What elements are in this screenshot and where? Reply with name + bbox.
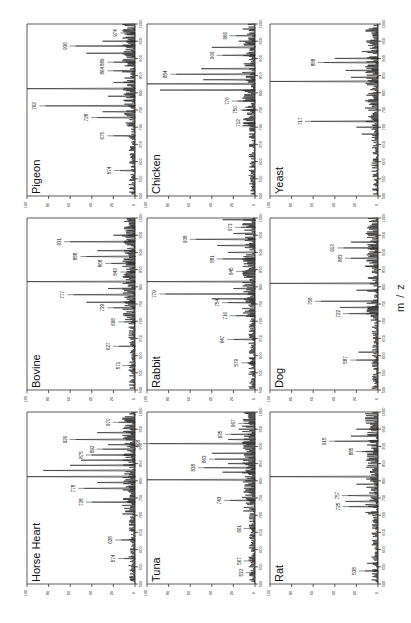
peak-label: 883 [338, 254, 343, 262]
svg-text:850: 850 [138, 459, 143, 466]
svg-text:20: 20 [109, 590, 114, 595]
peak-label: 778 [71, 484, 76, 492]
svg-text:600: 600 [381, 545, 386, 552]
svg-text:1000: 1000 [138, 407, 143, 417]
svg-text:750: 750 [138, 106, 143, 113]
svg-text:700: 700 [258, 317, 263, 324]
svg-text:20: 20 [229, 396, 234, 401]
peak-label: 838 [191, 463, 196, 471]
svg-text:600: 600 [138, 351, 143, 358]
svg-text:500: 500 [381, 192, 386, 199]
peak-label: 915 [322, 437, 327, 445]
svg-text:100: 100 [23, 589, 28, 596]
svg-text:100: 100 [143, 201, 148, 208]
peak-label: 722 [336, 309, 341, 317]
spectrum-plot: 1008060402005005506006507007508008509009… [147, 218, 269, 404]
spectrum-trace [27, 24, 135, 196]
peak-label: 889 [100, 58, 105, 66]
peak-label: 845 [229, 267, 234, 275]
svg-text:0: 0 [374, 203, 379, 206]
svg-text:60: 60 [66, 396, 71, 401]
peak-label: 776 [225, 97, 230, 105]
peak-label: 936 [63, 42, 68, 50]
svg-text:100: 100 [266, 395, 271, 402]
svg-text:800: 800 [258, 89, 263, 96]
svg-text:900: 900 [138, 54, 143, 61]
svg-text:0: 0 [131, 203, 136, 206]
svg-text:40: 40 [208, 590, 213, 595]
spectrum-panel-rat: 1008060402005005506006507007508008509009… [270, 412, 392, 598]
peak-label: 754 [215, 298, 220, 306]
svg-text:550: 550 [381, 369, 386, 376]
svg-text:800: 800 [138, 283, 143, 290]
svg-text:100: 100 [143, 395, 148, 402]
svg-text:20: 20 [229, 202, 234, 207]
svg-text:800: 800 [381, 283, 386, 290]
svg-text:0: 0 [251, 397, 256, 400]
peak-label: 973 [228, 223, 233, 231]
panel-title: Dog [273, 368, 285, 388]
svg-text:600: 600 [258, 157, 263, 164]
peak-label: 698 [111, 318, 116, 326]
svg-text:750: 750 [258, 494, 263, 501]
panel-title: Pigeon [30, 160, 42, 194]
svg-text:1000: 1000 [258, 407, 263, 417]
peak-label: 757 [335, 491, 340, 499]
panel-title: Rabbit [150, 356, 162, 388]
svg-text:650: 650 [138, 528, 143, 535]
spectrum-plot: 1008060402005005506006507007508008509009… [27, 412, 149, 598]
spectrum-plot: 1008060402005005506006507007508008509009… [270, 218, 392, 404]
svg-text:600: 600 [138, 545, 143, 552]
svg-text:700: 700 [381, 511, 386, 518]
svg-text:1000: 1000 [138, 19, 143, 29]
svg-text:950: 950 [258, 231, 263, 238]
svg-text:850: 850 [381, 265, 386, 272]
spectrum-panel-horse-heart: 1008060402005005506006507007508008509009… [27, 412, 149, 598]
svg-text:40: 40 [331, 590, 336, 595]
svg-text:80: 80 [45, 396, 50, 401]
peak-label: 888 [73, 252, 78, 260]
peak-label: 750 [233, 106, 238, 114]
svg-text:600: 600 [258, 545, 263, 552]
peak-label: 712 [236, 119, 241, 127]
peak-label: 538 [352, 567, 357, 575]
svg-text:20: 20 [352, 396, 357, 401]
svg-text:60: 60 [66, 202, 71, 207]
svg-text:80: 80 [288, 396, 293, 401]
x-axis-label: m / z [394, 283, 406, 312]
spectrum-trace [147, 24, 255, 196]
spectrum-trace [270, 218, 378, 390]
peak-label: 920 [63, 435, 68, 443]
peak-label: 743 [217, 496, 222, 504]
svg-text:1000: 1000 [381, 407, 386, 417]
svg-text:40: 40 [88, 202, 93, 207]
svg-text:700: 700 [381, 123, 386, 130]
svg-text:650: 650 [258, 528, 263, 535]
svg-text:20: 20 [229, 590, 234, 595]
svg-text:850: 850 [381, 459, 386, 466]
svg-text:800: 800 [138, 89, 143, 96]
svg-text:650: 650 [381, 528, 386, 535]
spectrum-trace [270, 24, 378, 196]
svg-text:60: 60 [186, 396, 191, 401]
svg-text:650: 650 [138, 140, 143, 147]
peak-label: 913 [330, 244, 335, 252]
peak-label: 931 [57, 237, 62, 245]
spectrum-plot: 1008060402005005506006507007508008509009… [147, 24, 269, 210]
svg-text:650: 650 [258, 140, 263, 147]
spectrum-plot: 1008060402005005506006507007508008509009… [270, 412, 392, 598]
svg-text:1000: 1000 [258, 19, 263, 29]
peak-label: 938 [183, 235, 188, 243]
svg-text:800: 800 [258, 477, 263, 484]
svg-text:100: 100 [143, 589, 148, 596]
svg-text:500: 500 [138, 580, 143, 587]
svg-text:500: 500 [258, 580, 263, 587]
svg-text:500: 500 [258, 386, 263, 393]
svg-text:900: 900 [381, 248, 386, 255]
svg-text:100: 100 [23, 201, 28, 208]
peak-label: 533 [239, 568, 244, 576]
peak-label: 843 [113, 268, 118, 276]
svg-text:40: 40 [331, 396, 336, 401]
svg-text:750: 750 [381, 494, 386, 501]
svg-text:100: 100 [266, 589, 271, 596]
